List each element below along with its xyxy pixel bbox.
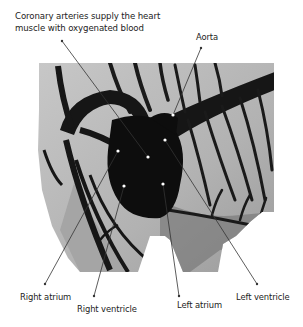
label-left-atrium: Left atrium [177,300,222,310]
label-right-ventricle: Right ventricle [77,304,137,314]
heart-illustration [0,0,303,327]
label-left-ventricle: Left ventricle [236,292,290,302]
label-right-atrium: Right atrium [20,292,71,302]
label-aorta: Aorta [196,32,218,42]
